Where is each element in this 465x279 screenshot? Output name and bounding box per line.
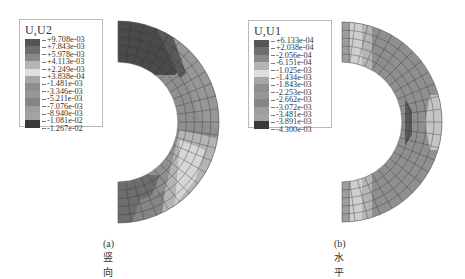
fe-mesh-figures [0, 0, 465, 268]
